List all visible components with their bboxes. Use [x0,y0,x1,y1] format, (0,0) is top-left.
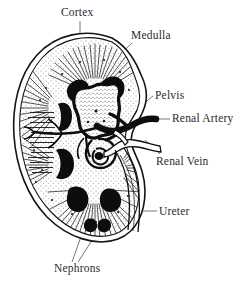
kidney-illustration [0,0,242,283]
label-medulla: Medulla [131,30,171,42]
label-pelvis: Pelvis [155,90,184,102]
label-cortex: Cortex [61,7,94,19]
kidney-diagram-figure: Cortex Medulla Pelvis Renal Artery Renal… [0,0,242,283]
label-renal-vein: Renal Vein [156,156,209,168]
label-nephrons: Nephrons [54,263,100,275]
kidney-body [14,33,161,242]
label-renal-artery: Renal Artery [172,113,233,125]
label-ureter: Ureter [159,206,190,218]
